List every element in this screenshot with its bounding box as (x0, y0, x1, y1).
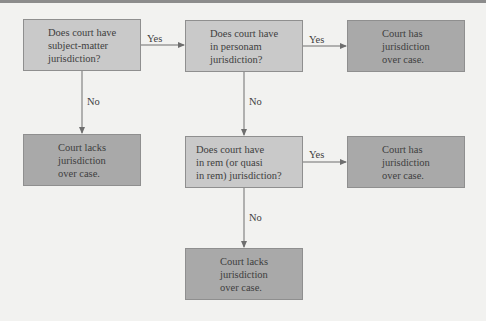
edge-label-yes: Yes (147, 33, 162, 44)
node-text: in rem) jurisdiction? (196, 169, 302, 182)
edge-label-no: No (249, 96, 262, 107)
node-text: Court lacks (220, 255, 302, 268)
node-in-personam-question: Does court have in personam jurisdiction… (185, 20, 303, 72)
node-text: jurisdiction (382, 156, 464, 169)
node-court-lacks-jurisdiction-1: Court lacks jurisdiction over case. (23, 134, 141, 186)
node-text: Does court have (210, 27, 302, 40)
node-text: jurisdiction? (210, 53, 302, 66)
node-text: over case. (382, 169, 464, 182)
node-subject-matter-question: Does court have subject-matter jurisdict… (23, 19, 141, 71)
node-text: in rem (or quasi (196, 156, 302, 169)
node-text: jurisdiction? (48, 52, 140, 65)
node-text: Court has (382, 143, 464, 156)
node-court-has-jurisdiction-2: Court has jurisdiction over case. (347, 136, 465, 188)
node-text: subject-matter (48, 39, 140, 52)
edge-label-yes: Yes (309, 34, 324, 45)
edge-label-yes: Yes (309, 149, 324, 160)
node-text: jurisdiction (220, 268, 302, 281)
node-text: in personam (210, 40, 302, 53)
node-text: Does court have (196, 143, 302, 156)
node-text: Does court have (48, 26, 140, 39)
node-text: over case. (58, 167, 140, 180)
node-text: over case. (220, 281, 302, 294)
node-text: over case. (382, 53, 464, 66)
node-text: Court has (382, 27, 464, 40)
node-text: jurisdiction (58, 154, 140, 167)
edge-label-no: No (87, 96, 100, 107)
node-court-has-jurisdiction-1: Court has jurisdiction over case. (347, 20, 465, 72)
node-text: Court lacks (58, 141, 140, 154)
edge-label-no: No (249, 212, 262, 223)
node-in-rem-question: Does court have in rem (or quasi in rem)… (185, 136, 303, 188)
node-court-lacks-jurisdiction-2: Court lacks jurisdiction over case. (185, 248, 303, 300)
node-text: jurisdiction (382, 40, 464, 53)
